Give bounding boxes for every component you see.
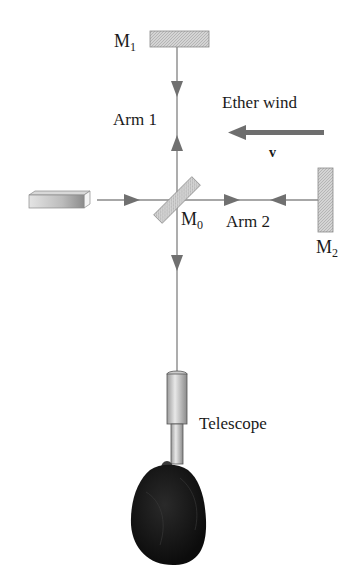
ether-wind-arrow bbox=[228, 125, 324, 140]
observer-head bbox=[131, 465, 206, 565]
arrow-down-icon bbox=[171, 255, 183, 271]
arrow-left-icon bbox=[228, 125, 246, 140]
telescope bbox=[161, 371, 187, 475]
mirror-1 bbox=[150, 31, 209, 47]
arrow-down-icon bbox=[171, 81, 183, 97]
mirror-1-label: M1 bbox=[114, 31, 136, 54]
arrow-up-icon bbox=[171, 135, 183, 151]
arm-2-label: Arm 2 bbox=[226, 212, 270, 231]
arrow-left-icon bbox=[270, 194, 286, 206]
velocity-label: v bbox=[269, 145, 276, 160]
mirror-0-label: M0 bbox=[181, 209, 203, 232]
arrow-right-icon bbox=[124, 194, 140, 206]
mirror-2-label: M2 bbox=[316, 237, 338, 260]
arrow-right-icon bbox=[224, 194, 240, 206]
mirror-2 bbox=[318, 168, 333, 232]
light-source bbox=[29, 191, 90, 208]
telescope-label: Telescope bbox=[199, 414, 267, 433]
ether-wind-label: Ether wind bbox=[222, 93, 298, 112]
arm-1-label: Arm 1 bbox=[113, 110, 157, 129]
interferometer-diagram: M1 Arm 1 Ether wind v M0 Arm 2 M2 Telesc… bbox=[0, 0, 352, 575]
